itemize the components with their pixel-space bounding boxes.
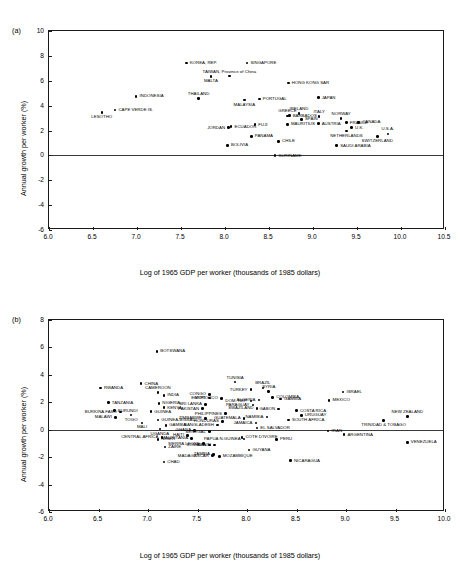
x-tick-label: 9.5 bbox=[351, 233, 360, 240]
data-point-label: TAIWAN, Province of China bbox=[203, 69, 257, 73]
data-point-label: SURINAME bbox=[279, 153, 302, 157]
data-point-label: LESOTHO bbox=[91, 115, 112, 119]
data-point bbox=[317, 122, 320, 125]
data-point-label: PANAMA bbox=[255, 134, 273, 138]
x-tick-mark bbox=[357, 227, 358, 230]
y-tick-mark bbox=[49, 347, 52, 348]
y-tick-mark bbox=[49, 457, 52, 458]
x-tick-label: 6.0 bbox=[43, 233, 52, 240]
data-point-label: CENTRAL AFRICA bbox=[121, 435, 158, 439]
x-tick-mark bbox=[137, 227, 138, 230]
y-tick-label: -2 bbox=[38, 453, 44, 460]
y-tick-mark bbox=[49, 31, 52, 32]
data-point-label: JAMAICA bbox=[234, 421, 253, 425]
data-point bbox=[113, 409, 116, 412]
data-point bbox=[317, 96, 320, 99]
data-point-label: NAMIBIA bbox=[245, 415, 263, 419]
data-point bbox=[279, 398, 282, 401]
x-tick-label: 6.5 bbox=[87, 233, 96, 240]
x-tick-mark bbox=[445, 509, 446, 512]
x-tick-mark bbox=[313, 227, 314, 230]
data-point-label: PORTUGAL bbox=[263, 97, 287, 101]
data-point bbox=[318, 115, 321, 118]
panel-b-zero-line bbox=[49, 430, 443, 431]
x-tick-label: 6.5 bbox=[93, 515, 102, 522]
data-point-label: SAUDI ARABIA bbox=[340, 144, 370, 148]
data-point-label: PERU bbox=[280, 437, 292, 441]
data-point-label: ARGENTINA bbox=[347, 432, 373, 436]
data-point-label: U.K. bbox=[355, 126, 364, 130]
panel-a-plot-area: LESOTHOCAPE VERDE IS.INDONESIATHAILANDKO… bbox=[48, 30, 444, 229]
y-tick-mark bbox=[49, 375, 52, 376]
x-tick-mark bbox=[346, 509, 347, 512]
x-tick-mark bbox=[198, 509, 199, 512]
data-point-label: BOTSWANA bbox=[160, 349, 185, 353]
data-point bbox=[185, 62, 188, 65]
x-tick-label: 10.0 bbox=[394, 233, 407, 240]
data-point-label: IRAN bbox=[332, 429, 342, 433]
y-tick-label: 10 bbox=[37, 27, 44, 34]
data-point-label: MALAWI bbox=[95, 415, 112, 419]
x-tick-mark bbox=[49, 509, 50, 512]
data-point-label: BENIN bbox=[198, 443, 211, 447]
data-point-label: KOREA, REP. bbox=[190, 61, 217, 65]
data-point bbox=[114, 416, 117, 419]
data-point-label: BOLIVIA bbox=[231, 143, 248, 147]
data-point-label: TOGO bbox=[125, 417, 138, 421]
x-tick-mark bbox=[269, 227, 270, 230]
y-tick-label: -6 bbox=[38, 226, 44, 233]
x-tick-label: 9.0 bbox=[307, 233, 316, 240]
data-point-label: GUINEA bbox=[154, 409, 171, 413]
data-point-label: FUJI bbox=[258, 122, 267, 126]
panel-b: (b) Annual growth per worker (%) BOTSWAN… bbox=[0, 286, 460, 571]
data-point-label: TUNISIA bbox=[226, 375, 243, 379]
data-point bbox=[208, 430, 211, 433]
data-point-label: RWANDA bbox=[104, 386, 123, 390]
x-tick-label: 6.0 bbox=[43, 515, 52, 522]
data-point bbox=[287, 82, 290, 85]
data-point bbox=[164, 446, 167, 449]
data-point bbox=[258, 399, 261, 402]
y-tick-label: 8 bbox=[40, 51, 44, 58]
data-point-label: MOROCCO bbox=[195, 396, 218, 400]
x-tick-mark bbox=[396, 509, 397, 512]
data-point-label: TRINIDAD & TOBAGO bbox=[361, 423, 406, 427]
data-point bbox=[250, 135, 253, 138]
data-point-label: GABON bbox=[259, 407, 275, 411]
data-point bbox=[340, 117, 343, 120]
data-point-label: NEW ZEALAND bbox=[392, 410, 424, 414]
y-tick-mark bbox=[49, 155, 52, 156]
data-point-label: CHILE bbox=[282, 139, 295, 143]
data-point-label: PAPUA N.GUINEA bbox=[204, 437, 241, 441]
data-point bbox=[256, 407, 259, 410]
y-tick-label: 6 bbox=[40, 343, 44, 350]
x-tick-label: 7.5 bbox=[175, 233, 184, 240]
data-point-label: ITALY bbox=[313, 110, 325, 114]
data-point-label: NETHERLANDS bbox=[330, 134, 363, 138]
panel-b-x-axis-label: Log of 1965 GDP per worker (thousands of… bbox=[0, 551, 460, 560]
data-point-label: MEXICO bbox=[333, 398, 350, 402]
x-tick-mark bbox=[99, 509, 100, 512]
data-point-label: JAPAN bbox=[322, 96, 336, 100]
data-point-label: JORDAN bbox=[207, 126, 225, 130]
y-tick-mark bbox=[49, 131, 52, 132]
data-point-label: MALTA bbox=[204, 79, 218, 83]
data-point bbox=[99, 387, 102, 390]
data-point bbox=[216, 424, 219, 427]
data-point-label: SOUTH AFRICA bbox=[292, 418, 324, 422]
x-tick-mark bbox=[225, 227, 226, 230]
data-point-label: SWAZILAND bbox=[228, 406, 253, 410]
y-tick-mark bbox=[49, 485, 52, 486]
data-point bbox=[342, 391, 345, 394]
data-point-label: MALAYSIA bbox=[234, 102, 256, 106]
data-point bbox=[266, 416, 269, 419]
panel-b-plot-area: BOTSWANARWANDACHINATANZANIABURKINA FASOB… bbox=[48, 319, 444, 511]
data-point bbox=[165, 424, 168, 427]
data-point bbox=[220, 397, 223, 400]
x-tick-label: 10.5 bbox=[438, 233, 451, 240]
x-tick-label: 8.0 bbox=[241, 515, 250, 522]
y-tick-mark bbox=[49, 81, 52, 82]
data-point-label: MAURITIUS bbox=[291, 122, 315, 126]
panel-a-zero-line bbox=[49, 155, 443, 156]
data-point-label: SPAIN bbox=[305, 117, 318, 121]
